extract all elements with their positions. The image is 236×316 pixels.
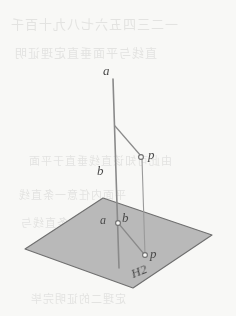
label-b-mid: b <box>97 164 104 177</box>
label-b-on-plane: b <box>122 211 129 224</box>
point-p-upper <box>139 155 144 160</box>
figure-page: 一二三四五六七八九十百千直线与平面垂直定理证明由此可知该直线垂直于平面平面内任意… <box>0 0 236 316</box>
point-p-on-plane <box>143 253 148 258</box>
label-a-on-plane: a <box>100 214 106 226</box>
perpendicular-segment-p-to-ab <box>115 126 141 156</box>
label-a-top: a <box>103 64 110 77</box>
geometry-figure <box>0 0 236 316</box>
point-ab-on-plane <box>116 221 121 226</box>
label-p-upper: p <box>148 148 155 161</box>
label-p-on-plane: p <box>150 247 157 260</box>
